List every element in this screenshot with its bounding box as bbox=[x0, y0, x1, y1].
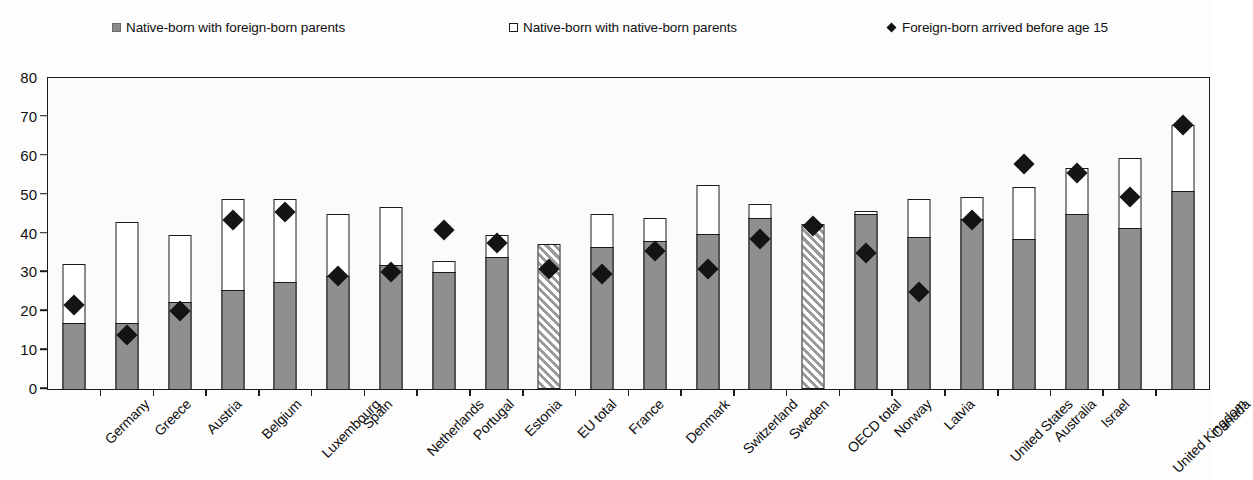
bar-group[interactable] bbox=[998, 78, 1051, 389]
x-tick-label: Denmark bbox=[682, 396, 732, 446]
legend-item-label: Foreign-born arrived before age 15 bbox=[902, 20, 1108, 35]
y-tick-label: 50 bbox=[20, 185, 37, 202]
y-axis: 01020304050607080 bbox=[0, 77, 47, 390]
x-tick-label: EU total bbox=[574, 396, 619, 441]
bar-group[interactable] bbox=[154, 78, 207, 389]
legend-item-label: Native-born with foreign-born parents bbox=[126, 20, 345, 35]
bar-segment-foreign-parents[interactable] bbox=[1013, 239, 1036, 389]
bar-group[interactable] bbox=[312, 78, 365, 389]
bar-segment-foreign-parents[interactable] bbox=[1171, 191, 1194, 389]
diamond-marker-icon bbox=[1014, 153, 1035, 174]
hollow-square-icon bbox=[509, 23, 518, 32]
x-tick-label: Austria bbox=[203, 396, 244, 437]
bar-group[interactable] bbox=[206, 78, 259, 389]
bar-group[interactable] bbox=[1103, 78, 1156, 389]
x-tick-label: Latvia bbox=[940, 396, 977, 433]
y-tick-label: 60 bbox=[20, 146, 37, 163]
bar-group[interactable] bbox=[101, 78, 154, 389]
plot-area bbox=[47, 77, 1210, 390]
bar-group[interactable] bbox=[787, 78, 840, 389]
x-tick-label: Belgium bbox=[258, 396, 304, 442]
x-tick-label: Germany bbox=[102, 396, 153, 447]
bar-group[interactable] bbox=[48, 78, 101, 389]
bar-group[interactable] bbox=[892, 78, 945, 389]
filled-square-icon bbox=[112, 23, 121, 32]
bar-group[interactable] bbox=[629, 78, 682, 389]
x-tick-label: France bbox=[626, 396, 667, 437]
bar-group[interactable] bbox=[259, 78, 312, 389]
y-tick-label: 20 bbox=[20, 302, 37, 319]
diamond-marker-icon bbox=[433, 219, 454, 240]
bar-group[interactable] bbox=[365, 78, 418, 389]
bar-segment-foreign-parents[interactable] bbox=[380, 265, 403, 389]
bar-group[interactable] bbox=[470, 78, 523, 389]
bar-segment-foreign-parents[interactable] bbox=[274, 282, 297, 389]
bar-segment-foreign-parents[interactable] bbox=[854, 214, 877, 389]
bar-group[interactable] bbox=[734, 78, 787, 389]
bar-group[interactable] bbox=[576, 78, 629, 389]
y-tick-label: 40 bbox=[20, 224, 37, 241]
y-tick-label: 80 bbox=[20, 69, 37, 86]
chart-legend: Native-born with foreign-born parentsNat… bbox=[0, 0, 1212, 50]
y-tick-label: 30 bbox=[20, 263, 37, 280]
legend-item-label: Native-born with native-born parents bbox=[523, 20, 737, 35]
bar-segment-foreign-parents[interactable] bbox=[485, 257, 508, 389]
bar-segment-foreign-parents[interactable] bbox=[960, 219, 983, 389]
x-axis-labels: GermanyGreeceAustriaBelgiumLuxembourgSpa… bbox=[47, 392, 1210, 480]
bar-segment-foreign-parents[interactable] bbox=[432, 272, 455, 389]
diamond-marker-icon bbox=[887, 22, 897, 32]
bar-segment-foreign-parents[interactable] bbox=[643, 241, 666, 389]
bar-aggregate[interactable] bbox=[802, 224, 825, 389]
bar-group[interactable] bbox=[945, 78, 998, 389]
x-tick-label: Israel bbox=[1098, 396, 1133, 431]
bar-segment-foreign-parents[interactable] bbox=[63, 323, 86, 389]
legend-item-1[interactable]: Native-born with native-born parents bbox=[509, 18, 737, 36]
bar-group[interactable] bbox=[1051, 78, 1104, 389]
bar-group[interactable] bbox=[523, 78, 576, 389]
bar-segment-foreign-parents[interactable] bbox=[907, 237, 930, 389]
legend-item-2[interactable]: Foreign-born arrived before age 15 bbox=[887, 18, 1108, 36]
bar-segment-foreign-parents[interactable] bbox=[1118, 228, 1141, 389]
x-tick-label: Estonia bbox=[521, 396, 564, 439]
bar-segment-foreign-parents[interactable] bbox=[221, 290, 244, 389]
legend-item-0[interactable]: Native-born with foreign-born parents bbox=[112, 18, 345, 36]
bar-segment-foreign-parents[interactable] bbox=[1066, 214, 1089, 389]
x-tick-label: Greece bbox=[151, 396, 194, 439]
y-tick-label: 0 bbox=[29, 380, 37, 397]
y-tick-label: 10 bbox=[20, 341, 37, 358]
bar-group[interactable] bbox=[1156, 78, 1209, 389]
bar-segment-foreign-parents[interactable] bbox=[327, 276, 350, 389]
bar-segment-foreign-parents[interactable] bbox=[696, 234, 719, 390]
y-tick-label: 70 bbox=[20, 107, 37, 124]
bar-group[interactable] bbox=[417, 78, 470, 389]
bar-group[interactable] bbox=[681, 78, 734, 389]
bar-group[interactable] bbox=[840, 78, 893, 389]
